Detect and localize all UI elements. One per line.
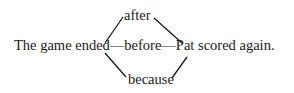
right-clause: Pat scored again.	[176, 37, 275, 53]
connective-alternatives-diagram: after The game ended—before—Pat scored a…	[0, 0, 294, 93]
main-sentence: The game ended—before—Pat scored again.	[14, 38, 275, 53]
connective-before: before	[124, 37, 161, 53]
dash-left: —	[110, 37, 125, 53]
dash-right: —	[161, 37, 176, 53]
alternative-because: because	[128, 72, 174, 87]
line-because-to-pat	[172, 57, 187, 78]
line-ended-to-because	[105, 53, 126, 77]
alternative-after: after	[124, 8, 151, 23]
left-clause: The game ended	[14, 37, 110, 53]
